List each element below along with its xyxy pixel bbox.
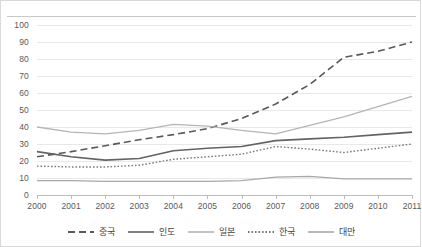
x-axis-line	[37, 195, 412, 196]
legend-item-인도[interactable]: 인도	[128, 228, 175, 237]
x-tick-label-2005: 2005	[198, 201, 217, 211]
y-tick-label-70: 70	[19, 72, 29, 81]
y-tick-label-10: 10	[19, 174, 29, 183]
y-tick-label-60: 60	[19, 89, 29, 98]
legend-swatch-icon	[248, 228, 274, 236]
x-tick-label-2003: 2003	[130, 201, 149, 211]
legend-swatch-icon	[188, 228, 214, 236]
series-lines	[37, 25, 412, 195]
x-tick-mark-2007	[276, 195, 277, 199]
x-tick-mark-2011	[412, 195, 413, 199]
x-tick-label-2010: 2010	[368, 201, 387, 211]
series-line-인도	[37, 132, 412, 160]
x-tick-label-2006: 2006	[232, 201, 251, 211]
legend-swatch-icon	[68, 228, 94, 236]
x-tick-label-2007: 2007	[266, 201, 285, 211]
y-tick-label-0: 0	[24, 191, 29, 200]
y-tick-label-30: 30	[19, 140, 29, 149]
x-tick-label-2004: 2004	[164, 201, 183, 211]
x-tick-label-2008: 2008	[300, 201, 319, 211]
x-tick-mark-2002	[105, 195, 106, 199]
x-tick-label-2011: 2011	[403, 201, 422, 211]
series-line-중국	[37, 42, 412, 157]
y-axis-tick-labels: 0102030405060708090100	[1, 25, 33, 195]
legend-label: 인도	[159, 228, 175, 237]
legend: 중국인도일본한국대만	[1, 223, 422, 241]
series-line-대만	[37, 176, 412, 181]
x-tick-label-2001: 2001	[61, 201, 80, 211]
y-tick-label-90: 90	[19, 38, 29, 47]
legend-label: 대만	[339, 228, 355, 237]
top-divider	[7, 16, 416, 17]
x-tick-label-2009: 2009	[334, 201, 353, 211]
legend-label: 한국	[279, 228, 295, 237]
x-tick-mark-2003	[139, 195, 140, 199]
x-axis-tick-labels: 2000200120022003200420052006200720082009…	[37, 201, 412, 215]
legend-item-대만[interactable]: 대만	[308, 228, 355, 237]
x-tick-mark-2006	[242, 195, 243, 199]
y-tick-label-80: 80	[19, 55, 29, 64]
y-tick-label-100: 100	[14, 21, 29, 30]
series-line-일본	[37, 96, 412, 133]
x-tick-mark-2000	[37, 195, 38, 199]
x-tick-mark-2009	[344, 195, 345, 199]
y-tick-label-20: 20	[19, 157, 29, 166]
legend-swatch-icon	[128, 228, 154, 236]
x-tick-mark-2010	[378, 195, 379, 199]
legend-swatch-icon	[308, 228, 334, 236]
legend-label: 일본	[219, 228, 235, 237]
legend-item-중국[interactable]: 중국	[68, 228, 115, 237]
legend-item-한국[interactable]: 한국	[248, 228, 295, 237]
legend-label: 중국	[99, 228, 115, 237]
x-tick-label-2002: 2002	[96, 201, 115, 211]
x-tick-mark-2004	[173, 195, 174, 199]
x-tick-mark-2005	[207, 195, 208, 199]
y-tick-label-40: 40	[19, 123, 29, 132]
x-tick-label-2000: 2000	[27, 201, 46, 211]
y-tick-label-50: 50	[19, 106, 29, 115]
plot-area	[37, 25, 412, 195]
legend-item-일본[interactable]: 일본	[188, 228, 235, 237]
x-tick-mark-2001	[71, 195, 72, 199]
x-tick-mark-2008	[310, 195, 311, 199]
